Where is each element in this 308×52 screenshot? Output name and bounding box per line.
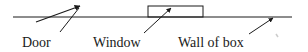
box-wall-diagram: Door Window Wall of box bbox=[0, 0, 308, 52]
window-shape bbox=[148, 6, 203, 17]
window-label: Window bbox=[93, 35, 142, 50]
door-label: Door bbox=[22, 35, 51, 50]
wall-label: Wall of box bbox=[178, 35, 244, 50]
door-shape bbox=[36, 6, 80, 22]
wall-pointer-arrow bbox=[249, 18, 273, 34]
faint-mark bbox=[276, 34, 278, 37]
